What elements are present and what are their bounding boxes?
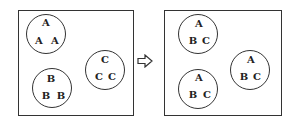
circle-label: A <box>42 18 50 28</box>
circle-label: C <box>253 72 261 82</box>
circle-label: B <box>47 74 55 84</box>
circle-label: A <box>51 36 59 46</box>
circle-label: A <box>195 19 203 29</box>
circle-label: C <box>108 72 116 82</box>
circle-label: A <box>247 55 255 65</box>
circle-label: B <box>189 36 197 46</box>
circle-label: A <box>195 73 203 83</box>
circle-label: C <box>203 90 211 100</box>
right-arrow-icon <box>137 54 153 68</box>
circle-label: C <box>95 72 103 82</box>
circle-label: A <box>35 36 43 46</box>
circle-label: B <box>240 72 248 82</box>
circle-label: B <box>189 90 197 100</box>
circle-label: B <box>57 91 65 101</box>
circle-label: B <box>42 91 50 101</box>
circle-label: C <box>101 55 109 65</box>
circle-label: C <box>202 36 210 46</box>
